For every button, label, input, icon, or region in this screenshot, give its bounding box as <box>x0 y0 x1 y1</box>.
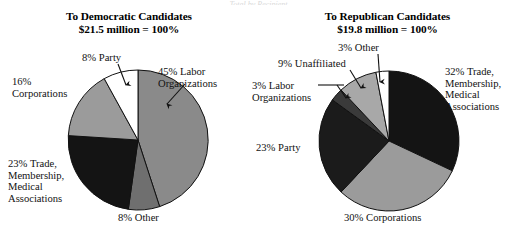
label-right-unaffiliated: 9% Unaffiliated <box>278 58 372 70</box>
label-left-other: 8% Other <box>118 212 184 224</box>
label-right-labor: 3% Labor Organizations <box>252 80 334 103</box>
chart-republican: To Republican Candidates $19.8 million =… <box>258 0 517 248</box>
label-left-party: 8% Party <box>82 52 144 64</box>
label-right-trade: 32% Trade, Membership, Medical Associati… <box>445 66 517 112</box>
label-right-party: 23% Party <box>256 142 326 154</box>
leader-lines-left <box>0 0 258 248</box>
label-left-corporations: 16% Corporations <box>12 76 82 99</box>
label-right-other: 3% Other <box>338 42 408 54</box>
label-right-corporations: 30% Corporations <box>344 212 440 224</box>
label-left-labor: 45% Labor Organizations <box>158 66 242 89</box>
label-left-trade: 23% Trade, Membership, Medical Associati… <box>8 158 84 204</box>
pie-chart-figure: Total by Recipient To Democratic Candida… <box>0 0 517 248</box>
chart-democratic: To Democratic Candidates $21.5 million =… <box>0 0 258 248</box>
leader-lines-right <box>258 0 517 248</box>
